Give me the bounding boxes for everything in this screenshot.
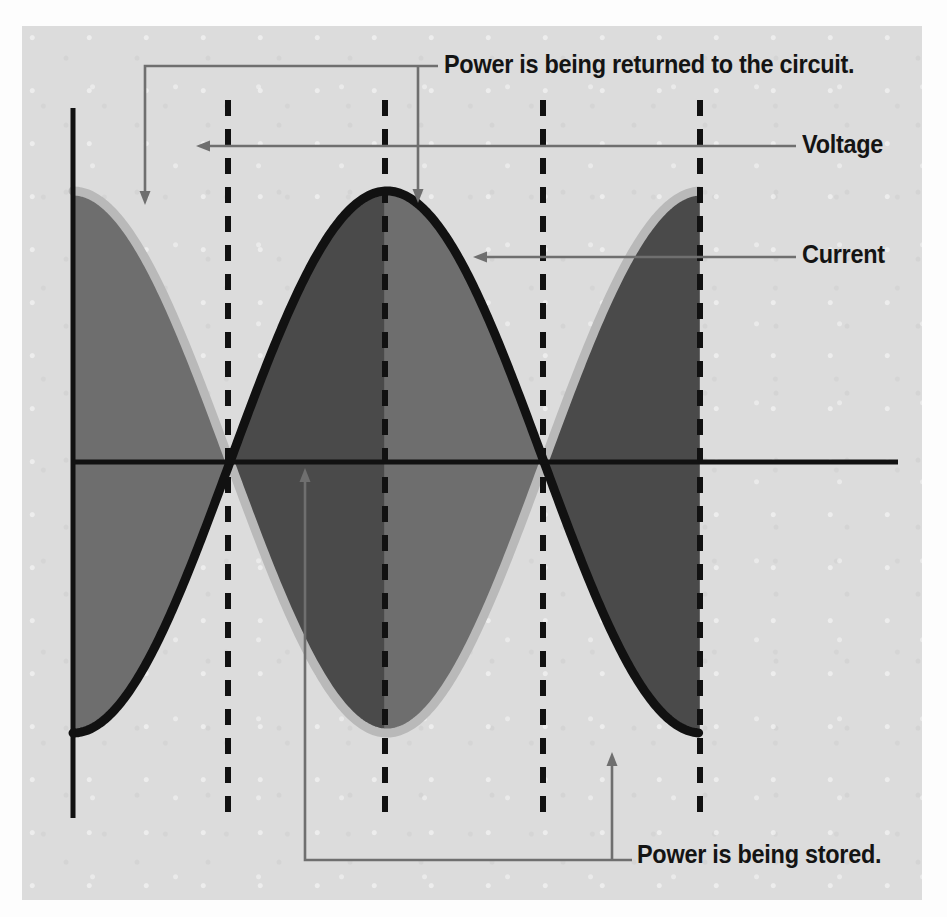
label-power-stored: Power is being stored.	[637, 840, 881, 869]
arrowhead-current	[473, 252, 487, 263]
arrowhead-voltage	[196, 141, 210, 152]
label-voltage: Voltage	[802, 130, 883, 159]
label-current: Current	[802, 240, 885, 269]
arrowhead-returned-left	[140, 191, 151, 205]
arrowhead-stored-right	[607, 752, 618, 766]
label-power-returned: Power is being returned to the circuit.	[444, 50, 854, 79]
leader-power-returned	[145, 66, 438, 195]
figure-root: Power is being returned to the circuit. …	[0, 0, 947, 917]
